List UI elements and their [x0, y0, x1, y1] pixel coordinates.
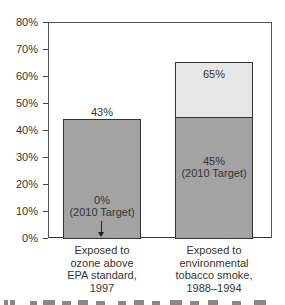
category-line: ozone above — [52, 257, 152, 270]
category-line: Exposed to — [52, 244, 152, 257]
x-category-label-ozone: Exposed to ozone above EPA standard, 199… — [52, 244, 152, 294]
target-caption-label: (2010 Target) — [175, 167, 253, 179]
arrow-head-icon — [98, 232, 104, 237]
category-line: tobacco smoke, — [160, 269, 268, 282]
y-tick-label-80: 80% — [0, 16, 38, 28]
y-tick-label-10: 10% — [0, 205, 38, 217]
y-tick-label-0: 0% — [0, 232, 38, 244]
target-value-label: 0% — [63, 194, 141, 206]
y-tick-label-60: 60% — [0, 70, 38, 82]
bar-ozone — [63, 119, 141, 239]
category-line: EPA standard, — [52, 269, 152, 282]
y-tick-label-30: 30% — [0, 151, 38, 163]
bar-value-label: 43% — [63, 106, 141, 118]
y-tick-label-50: 50% — [0, 97, 38, 109]
category-line: environmental — [160, 257, 268, 270]
x-category-label-tobacco: Exposed to environmental tobacco smoke, … — [160, 244, 268, 294]
category-line: 1997 — [52, 282, 152, 295]
y-tick-mark — [43, 238, 48, 239]
bar-value-label: 65% — [175, 68, 253, 80]
y-tick-label-20: 20% — [0, 178, 38, 190]
category-line: Exposed to — [160, 244, 268, 257]
cropped-text-icon — [0, 297, 285, 305]
target-value-label: 45% — [175, 155, 253, 167]
y-tick-label-40: 40% — [0, 124, 38, 136]
cropped-caption-fragment — [0, 296, 285, 305]
y-tick-label-70: 70% — [0, 43, 38, 55]
category-line: 1988–1994 — [160, 282, 268, 295]
target-caption-label: (2010 Target) — [63, 206, 141, 218]
